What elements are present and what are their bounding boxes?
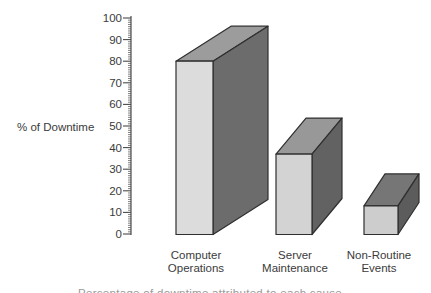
y-axis-tick-label: 60 bbox=[109, 98, 122, 110]
y-axis-tick-label: 0 bbox=[116, 228, 122, 240]
chart-plot-area: % of Downtime 0102030405060708090100 Com… bbox=[0, 0, 431, 293]
y-axis-tick-label: 70 bbox=[109, 77, 122, 89]
category-label-computer-operations: Operations bbox=[168, 262, 225, 274]
y-axis-tick-label: 50 bbox=[109, 120, 122, 132]
y-axis-tick-label: 100 bbox=[103, 12, 122, 24]
category-labels: ComputerOperationsServerMaintenanceNon-R… bbox=[168, 249, 411, 274]
bars-group bbox=[176, 26, 419, 234]
y-axis-title: % of Downtime bbox=[17, 121, 94, 133]
cropped-caption-fragment: Percentage of downtime attributed to eac… bbox=[78, 287, 342, 293]
y-axis: 0102030405060708090100 bbox=[103, 12, 131, 240]
y-axis-tick-label: 40 bbox=[109, 142, 122, 154]
bar-front-face bbox=[364, 206, 398, 235]
category-label-non-routine-events: Events bbox=[361, 262, 396, 274]
bar-computer-operations bbox=[176, 26, 268, 234]
y-axis-tick-label: 80 bbox=[109, 55, 122, 67]
category-label-server-maintenance: Server bbox=[278, 249, 312, 261]
y-axis-tick-label: 30 bbox=[109, 163, 122, 175]
category-label-non-routine-events: Non-Routine bbox=[347, 249, 412, 261]
bar-server-maintenance bbox=[276, 118, 342, 234]
bar-front-face bbox=[176, 61, 213, 234]
bar-front-face bbox=[276, 154, 312, 234]
bar-side-face bbox=[213, 26, 268, 234]
category-label-computer-operations: Computer bbox=[171, 249, 222, 261]
category-label-server-maintenance: Maintenance bbox=[262, 262, 328, 274]
bar-non-routine-events bbox=[364, 174, 419, 235]
downtime-bar-chart: % of Downtime 0102030405060708090100 Com… bbox=[0, 0, 431, 293]
y-axis-tick-label: 90 bbox=[109, 34, 122, 46]
y-axis-tick-label: 20 bbox=[109, 185, 122, 197]
y-axis-tick-label: 10 bbox=[109, 206, 122, 218]
